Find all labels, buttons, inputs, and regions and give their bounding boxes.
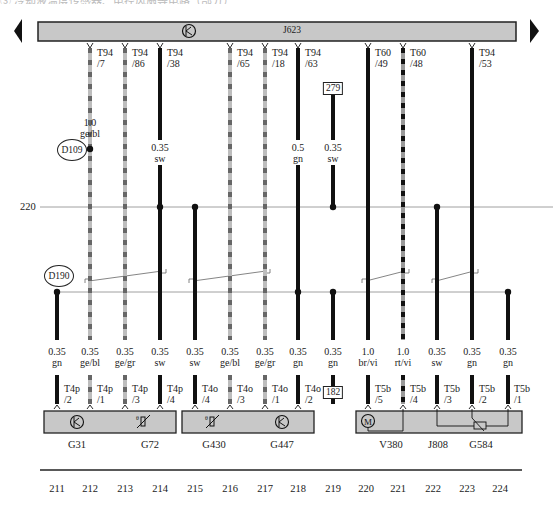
- column-219: 219: [325, 483, 341, 494]
- component-box-g31-g72: [44, 411, 176, 433]
- component-v380: V380: [379, 439, 402, 450]
- wire-label-224: 0.35gn: [499, 346, 517, 368]
- ref-box-279: 279: [323, 82, 343, 95]
- bottom-connector-217: T4o/1: [272, 383, 288, 405]
- component-g447: G447: [270, 439, 293, 450]
- wire-label-219-upper: 0.35sw: [324, 142, 342, 164]
- bottom-connector-218: T4o/2: [305, 383, 321, 405]
- component-g72: G72: [141, 439, 159, 450]
- column-222: 222: [425, 483, 441, 494]
- column-215: 215: [187, 483, 203, 494]
- top-connector-220: T60/49: [375, 47, 391, 69]
- bottom-connector-215: T4o/4: [202, 383, 218, 405]
- column-220: 220: [358, 483, 374, 494]
- splice-d190: D190: [44, 265, 74, 287]
- wire-label-214-upper: 0.35sw: [151, 142, 169, 164]
- column-221: 221: [390, 483, 406, 494]
- wire-label-213: 0.35ge/gr: [115, 346, 136, 368]
- bottom-connector-213: T4p/3: [132, 383, 148, 405]
- top-connector-216: T94/65: [237, 47, 253, 69]
- wire-label-211: 0.35gn: [48, 346, 66, 368]
- column-212: 212: [82, 483, 98, 494]
- wire-label-216: 0.35ge/bl: [220, 346, 240, 368]
- bottom-connector-216: T4o/3: [237, 383, 253, 405]
- bottom-connector-214: T4p/4: [167, 383, 183, 405]
- wire-label-212-upper: 1.0ge/bl: [80, 117, 100, 139]
- bottom-connector-224: T5b/1: [514, 383, 530, 405]
- bus-arrow-right-icon: [530, 19, 539, 43]
- bottom-connector-212: T4p/1: [97, 383, 113, 405]
- wire-label-214: 0.35sw: [151, 346, 169, 368]
- component-g430: G430: [202, 439, 225, 450]
- component-g31: G31: [68, 439, 86, 450]
- top-connector-218: T94/63: [305, 47, 321, 69]
- module-j623: [38, 22, 516, 41]
- component-box-v380-j808-g584: [356, 411, 522, 433]
- column-214: 214: [152, 483, 168, 494]
- wire-label-218: 0.35gn: [289, 346, 307, 368]
- bottom-connector-222: T5b/3: [444, 383, 460, 405]
- wire-label-221: 1.0rt/vi: [395, 346, 412, 368]
- wire-label-217: 0.35ge/gr: [255, 346, 276, 368]
- svg-text:M: M: [364, 417, 372, 427]
- column-223: 223: [459, 483, 475, 494]
- column-216: 216: [222, 483, 238, 494]
- bottom-connector-223: T5b/2: [479, 383, 495, 405]
- top-connector-213: T94/86: [132, 47, 148, 69]
- wire-label-212: 0.35ge/bl: [80, 346, 100, 368]
- top-connector-217: T94/18: [272, 47, 288, 69]
- component-box-g430-g447: [182, 411, 314, 433]
- component-j808: J808: [428, 439, 448, 450]
- line-220-label: 220: [20, 201, 36, 212]
- component-g584: G584: [469, 439, 492, 450]
- bottom-connector-220: T5b/5: [375, 383, 391, 405]
- column-211: 211: [49, 483, 64, 494]
- bus-arrow-left-icon: [14, 19, 22, 43]
- wire-label-215: 0.35sw: [186, 346, 204, 368]
- top-connector-221: T60/48: [410, 47, 426, 69]
- svg-text:θ: θ: [205, 415, 208, 421]
- top-connector-223: T94/53: [479, 47, 495, 69]
- column-218: 218: [290, 483, 306, 494]
- bottom-connector-211: T4p/2: [64, 383, 80, 405]
- wire-label-219: 0.35gn: [324, 346, 342, 368]
- wire-label-223: 0.35gn: [463, 346, 481, 368]
- svg-text:θ: θ: [136, 415, 139, 421]
- top-connector-212: T94/7: [97, 47, 113, 69]
- top-connector-214: T94/38: [167, 47, 183, 69]
- wire-label-220: 1.0br/vi: [359, 346, 378, 368]
- column-224: 224: [492, 483, 508, 494]
- column-213: 213: [117, 483, 133, 494]
- bottom-connector-221: T5b/4: [410, 383, 426, 405]
- wire-label-222: 0.35sw: [428, 346, 446, 368]
- column-217: 217: [257, 483, 273, 494]
- module-name: J623: [283, 25, 301, 35]
- splice-d109: D109: [57, 139, 87, 161]
- wiring-diagram: θ θ M: [0, 0, 553, 507]
- wire-label-218-upper: 0.5gn: [292, 142, 305, 164]
- ref-box-182: 182: [323, 386, 343, 399]
